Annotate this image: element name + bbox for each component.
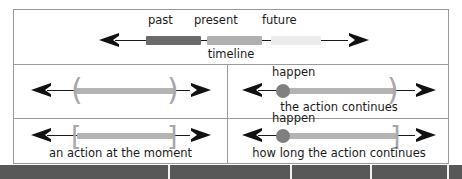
bracket-close-square-icon: ] (167, 124, 178, 148)
bracket-close-paren-icon: ) (167, 78, 179, 102)
cell-continuous-unbounded: ( ) (14, 65, 228, 118)
timeline-label-present: present (194, 14, 238, 27)
timeline-row: past present future timeline (14, 10, 448, 65)
duration-bar (76, 88, 174, 94)
timeline-segment-present (207, 36, 262, 45)
timeline-label-past: past (148, 14, 173, 27)
timeline-segment-future (271, 36, 321, 45)
cell-how-long-action-continues: happen ] how long the action continues (228, 119, 450, 163)
action-continues-caption: the action continues (228, 101, 450, 114)
strip-separator (290, 165, 292, 179)
strip-separator (447, 165, 449, 179)
arrowhead-right-icon (191, 128, 211, 142)
action-at-moment-axis: [ ] (31, 124, 211, 148)
happen-label: happen (272, 66, 315, 79)
action-at-moment-caption: an action at the moment (14, 147, 227, 160)
arrowhead-right-icon (349, 33, 369, 47)
strip-separator (168, 165, 170, 179)
arrowhead-right-icon (416, 83, 436, 97)
bracket-open-square-icon: [ (71, 124, 82, 148)
bracket-close-square-icon: ] (390, 124, 401, 148)
bottom-row: [ ] an action at the moment happen ] how… (14, 119, 448, 163)
happen-dot-icon (276, 129, 290, 143)
bracket-close-paren-icon: ) (387, 78, 399, 102)
duration-bar (77, 133, 173, 139)
arrowhead-right-icon (416, 128, 436, 142)
timeline-label-future: future (262, 14, 297, 27)
how-long-caption: how long the action continues (228, 147, 450, 160)
timeline-caption: timeline (14, 48, 448, 61)
how-long-axis: ] (242, 124, 436, 148)
middle-row: ( ) happen ) the action continues (14, 65, 448, 119)
timeline-diagram: past present future timeline ( ) (13, 9, 449, 164)
duration-bar (282, 88, 394, 94)
cell-action-continues: happen ) the action continues (228, 65, 450, 118)
strip-separator (370, 165, 372, 179)
happen-dot-icon (276, 84, 290, 98)
arrowhead-right-icon (191, 83, 211, 97)
bottom-strip (0, 165, 462, 179)
bracket-open-paren-icon: ( (71, 78, 83, 102)
timeline-segment-past (146, 36, 201, 45)
continuous-unbounded-axis: ( ) (31, 79, 211, 103)
duration-bar (282, 133, 396, 139)
cell-action-at-the-moment: [ ] an action at the moment (14, 119, 228, 163)
